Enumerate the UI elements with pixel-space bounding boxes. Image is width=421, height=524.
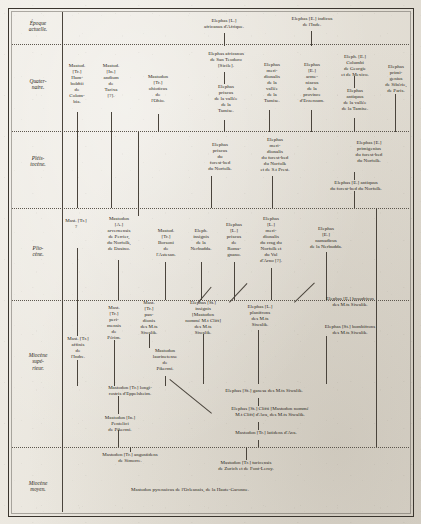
- link-insignis-siwalik-down: [203, 334, 204, 384]
- link-africanus-up: [224, 33, 225, 46]
- link-affinis-down: [77, 360, 78, 386]
- taxon-mastodon-andium: Mastod. [In.] andium de Tarixa [?].: [94, 63, 128, 99]
- taxon-elephas-primigenius-forestbed: Elephas [E.] primigenius du forest-bed d…: [330, 140, 408, 164]
- taxon-eleph-insignis-nerbudda: Eleph. insignis de la Nerbudda.: [184, 228, 218, 252]
- link-meridionalis-fb-down: [272, 176, 273, 208]
- link-ganesa-clifti: [258, 398, 259, 406]
- link-pandionis-down: [149, 334, 150, 348]
- taxon-elephas-namadicus: Elephas [E.] namadicus de la Nerbudda.: [294, 226, 358, 250]
- link-ohioticus-long: [138, 132, 139, 208]
- taxon-mastodon-humboldtii: Mastod. [Tr.] Hum- boldtii de Colom- bia…: [60, 63, 94, 105]
- taxon-elephas-indicus-inde: Elephas [E.] indicus de l'Inde.: [266, 16, 358, 28]
- taxon-mastodon-longirostris: Mastodon [Tr.] longi- rostris d'Eppelshe…: [74, 385, 186, 397]
- taxon-elephas-bombifrons: Elephas [St.] bombifrons des M.ts Siwali…: [294, 324, 406, 336]
- taxon-mast-affinis-indre: Mast. [Tr.] affinis de l'Indre.: [60, 336, 96, 360]
- link-meridionalis-down: [269, 110, 270, 132]
- link-mast-tr-down: [77, 248, 78, 300]
- link-primigenius-fb-antiquus: [354, 172, 355, 180]
- link-armeniacus-down: [311, 110, 312, 132]
- taxon-elephas-clifti: Elephas [St.] Clifti [Mastodon nommé M.t…: [190, 406, 350, 418]
- era-divider-pleistocene: [12, 208, 409, 209]
- taxon-elephas-africanus-afrique: Elephas [L.] africanus d'Afrique.: [176, 18, 272, 30]
- taxon-mast-tr-unknown: Mast. [Tr.] ?: [58, 218, 94, 230]
- taxon-elephas-meridionalis-tamise: Elephas meri- dionalis de la vallée de l…: [252, 62, 292, 104]
- taxon-elephas-antiquus-forestbed: Elephas [E.] antiquus du forest-bed du N…: [300, 180, 412, 192]
- era-label-epoque-actuelle: Époque actuelle.: [16, 20, 60, 33]
- link-ohioticus-down: [158, 114, 159, 132]
- taxon-elephas-meridionalis-crag: Elephas [L.] meri- dionalis du crag du N…: [250, 216, 292, 264]
- link-clifti-latidens: [258, 422, 259, 430]
- link-columbi-antiquus: [354, 76, 355, 88]
- link-longirostris-pentelici: [118, 396, 119, 414]
- taxon-mastodon-borsoni: Mastod. [Tr.] Borsoni de l'Astesan.: [148, 228, 184, 258]
- figure-canvas: Époque actuelle. Quater- naire. Pléis- t…: [0, 0, 421, 524]
- taxon-elephas-insignis-siwalik: Elephas [St.] insignis [Mastodon nommé M…: [172, 300, 234, 336]
- taxon-elephas-planifrons-siwalik: Elephas [L.] planifrons des M.ts Siwalik…: [232, 304, 288, 328]
- link-priscus-down: [224, 120, 225, 132]
- link-ohioticus-stub: [138, 208, 139, 216]
- taxon-mast-pandionis: Mast. [Tr.] pan- dionis des M.ts Siwalik…: [132, 300, 166, 336]
- link-meridionalis-crag-down: [271, 268, 272, 300]
- taxon-mast-perimensis: Mast. [Tr.] peri- mensis de Périm.: [96, 305, 132, 341]
- link-pentelici-down: [118, 430, 119, 447]
- taxon-mastodon-pentelici: Mastodon [In.] Pentelici de Pikermi.: [84, 415, 156, 433]
- link-antiquus-down: [354, 118, 355, 132]
- link-andium-long: [111, 132, 112, 208]
- era-divider-miocene-sup: [12, 447, 409, 448]
- taxon-mastodon-pyrenaicus: Mastodon pyrenaicus de l'Orleanais, de l…: [60, 487, 320, 493]
- era-label-pleistocene: Pléis- tocène.: [16, 155, 60, 168]
- taxon-mastodon-arvernensis: Mastodon [A.] arvernensis de Perrier, du…: [96, 216, 142, 252]
- taxon-mastodon-laurinetense-pikermi: Mastodon laurinetense de Pikermi.: [140, 348, 190, 372]
- link-borsoni-down: [165, 262, 166, 300]
- taxon-elephas-priscus-romagnano: Elephas [L.] priscus de Roma- gnano.: [218, 222, 250, 258]
- era-label-miocene-superieur: Miocène supé- rieur.: [14, 352, 62, 371]
- taxon-mastodon-turicensis: Mastodon [Tr.] turicensis de Zurich et d…: [176, 460, 316, 472]
- link-laurinetense-down: [165, 376, 166, 386]
- taxon-mastodon-ohioticus: Mastodon [Tr.] ohioticus de l'Ohio.: [136, 74, 180, 104]
- link-priscus-fb-down: [211, 176, 212, 208]
- era-label-quaternaire: Quater- naire.: [16, 78, 60, 91]
- link-right-long: [376, 208, 377, 300]
- taxon-elephas-ganesa: Elephas [St.] ganesa des M.ts Siwalik.: [196, 388, 332, 394]
- link-angustidens-up: [130, 447, 131, 452]
- taxon-mastodon-latidens: Mastodon [Tr.] latidens d'Ava.: [206, 430, 326, 436]
- link-insignis-down: [201, 262, 202, 300]
- link-latidens-down: [258, 440, 259, 447]
- link-indicus-up: [311, 31, 312, 46]
- taxon-elephas-primigenius-siberie: Elephas primi- genius de Sibérie, de Par…: [378, 64, 414, 94]
- link-arvernensis-down: [118, 260, 119, 300]
- link-siwalik-right-down: [326, 336, 327, 384]
- taxon-elephas-columbi: Eleph. [E.] Columbi de Georgie et de Mex…: [330, 54, 380, 78]
- era-divider-actuelle: [12, 44, 409, 45]
- link-antiquus-fb-down: [354, 191, 355, 208]
- taxon-elephas-meridionalis-forestbed: Elephas meri- dionalis du forest-bed du …: [244, 137, 306, 173]
- link-andium-down: [111, 112, 112, 132]
- link-sanTeodoro-priscus: [224, 72, 225, 84]
- taxon-elephas-hysudricus: Elephas [E.] hysudricus des M.ts Siwalik…: [294, 296, 406, 308]
- taxon-elephas-antiquus-tamise: Elephas antiquus de la vallée de la Tami…: [326, 88, 384, 112]
- era-label-miocene-moyen: Miocène moyen.: [16, 480, 60, 493]
- link-humboldtii-down: [77, 112, 78, 132]
- link-perimensis-down: [114, 340, 115, 386]
- era-label-pliocene: Plio- cène.: [16, 245, 60, 258]
- link-affinis-up: [77, 300, 78, 336]
- link-rightmost-long: [376, 300, 377, 447]
- link-namadicus-down: [326, 252, 327, 300]
- era-divider-quaternaire: [12, 131, 409, 132]
- link-primigenius-down: [395, 94, 396, 132]
- link-turicensis-up: [246, 447, 247, 460]
- link-humboldtii-long: [77, 132, 78, 208]
- taxon-elephas-priscus-forestbed: Elephas priscus du forest-bed du Norfolk…: [190, 142, 250, 172]
- link-planifrons-down: [258, 330, 259, 384]
